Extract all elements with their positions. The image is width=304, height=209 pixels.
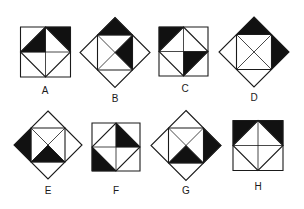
figure-label-f: F: [113, 186, 119, 196]
figure-label-a: A: [42, 86, 49, 96]
figure-label-b: B: [112, 94, 119, 104]
figure-label-e: E: [45, 186, 52, 196]
shaded-corner-right: [272, 35, 290, 70]
figure-label-g: G: [182, 186, 190, 196]
shaded-inner-right: [115, 35, 133, 70]
figure-h: [233, 121, 283, 171]
figure-g: [151, 111, 221, 181]
shaded-corner-left: [14, 128, 31, 162]
figure-label-h: H: [254, 182, 261, 192]
shaded-corner-right: [204, 128, 222, 163]
shaded-inner-bottom: [169, 146, 204, 164]
figure-label-c: C: [181, 84, 188, 94]
shaded-corner-top: [237, 17, 272, 35]
figure-d: [219, 17, 289, 87]
figure-e: [14, 111, 82, 179]
figure-canvas: [0, 0, 304, 209]
figure-label-d: D: [250, 93, 257, 103]
figure-b: [80, 18, 150, 88]
figure-c: [159, 27, 208, 76]
shaded-inner-bottom: [31, 145, 65, 162]
shaded-corner-top: [98, 18, 133, 36]
figure-a: [21, 27, 71, 77]
figure-f: [92, 123, 140, 171]
